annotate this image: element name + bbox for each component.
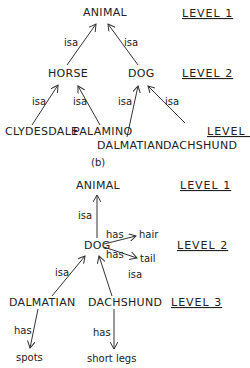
edge-label-has: has <box>106 249 124 260</box>
level-1-label: LEVEL 1 <box>182 7 233 20</box>
node-palamino: PALAMINO <box>73 125 132 138</box>
node-clydesdale: CLYDESDALE <box>5 125 78 138</box>
edge-label-isa: isa <box>78 210 92 221</box>
level-3-label: LEVEL 3 <box>207 125 250 138</box>
edge-label-has: has <box>93 327 111 338</box>
node-dalmatian: DALMATIAN <box>9 296 76 309</box>
node-animal: ANIMAL <box>83 6 128 19</box>
level-3-label: LEVEL 3 <box>171 296 222 309</box>
level-2-label: LEVEL 2 <box>177 239 228 252</box>
node-animal: ANIMAL <box>76 179 121 192</box>
edge-label-isa: isa <box>128 269 142 280</box>
node-dog: DOG <box>128 67 155 80</box>
node-dachshund: DACHSHUND <box>88 296 162 309</box>
node-dachshund: DACHSHUND <box>163 139 237 152</box>
edge-label-has: has <box>14 325 32 336</box>
edge-label-isa: isa <box>64 37 78 48</box>
node-tail: tail <box>140 253 156 264</box>
figure-caption: (b) <box>91 157 105 168</box>
node-spots: spots <box>16 352 43 363</box>
edge-label-isa: isa <box>118 96 132 107</box>
node-hair: hair <box>139 229 159 240</box>
node-shortlegs: short legs <box>87 353 136 364</box>
node-horse: HORSE <box>48 67 88 80</box>
edge-label-isa: isa <box>55 267 69 278</box>
edge-label-isa: isa <box>32 96 46 107</box>
edge-label-isa: isa <box>73 96 87 107</box>
node-dalmatian: DALMATIAN <box>97 139 164 152</box>
edge-dachshund-dog <box>99 256 112 296</box>
edge-label-isa: isa <box>165 96 179 107</box>
edge-label-has: has <box>106 229 124 240</box>
level-2-label: LEVEL 2 <box>182 67 233 80</box>
level-1-label: LEVEL 1 <box>180 179 231 192</box>
semantic-network-diagram: ANIMAL LEVEL 1 isa isa HORSE DOG LEVEL 2… <box>0 0 250 368</box>
edge-label-isa: isa <box>124 37 138 48</box>
